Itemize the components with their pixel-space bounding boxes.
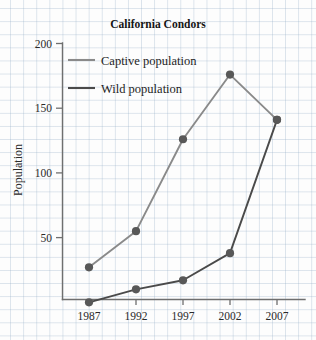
data-point-wild-1997 [179,276,187,284]
data-point-captive-2002 [226,70,234,78]
data-point-wild-2007 [273,116,281,124]
data-point-wild-1987 [85,298,93,306]
x-tick-label-2007: 2007 [266,310,289,322]
data-point-captive-1997 [179,135,187,143]
legend-label-wild: Wild population [101,82,183,96]
y-tick-label-50: 50 [41,232,53,244]
data-series-layer [85,70,281,306]
y-tick-label-100: 100 [35,167,53,179]
y-axis-title: Population [11,144,25,196]
data-point-wild-1992 [132,285,140,293]
data-point-wild-2002 [226,249,234,257]
series-line-captive [89,75,277,268]
data-point-captive-1992 [132,227,140,235]
y-tick-label-200: 200 [35,38,53,50]
california-condors-line-chart: California Condors Population 200 150 10… [0,0,316,340]
x-tick-label-2002: 2002 [219,310,242,322]
x-tick-label-1987: 1987 [78,310,101,322]
x-axis-ticks: 1987 1992 1997 2002 2007 [78,300,289,323]
x-tick-label-1997: 1997 [172,310,195,322]
chart-screenshot: California Condors Population 200 150 10… [0,0,316,340]
series-line-wild [89,120,277,302]
data-point-captive-1987 [85,263,93,271]
legend-label-captive: Captive population [101,54,197,68]
chart-title: California Condors [110,18,206,30]
x-tick-label-1992: 1992 [125,310,148,322]
chart-legend: Captive population Wild population [68,54,197,96]
y-tick-label-150: 150 [35,102,53,114]
y-axis-ticks: 200 150 100 50 [35,38,63,244]
